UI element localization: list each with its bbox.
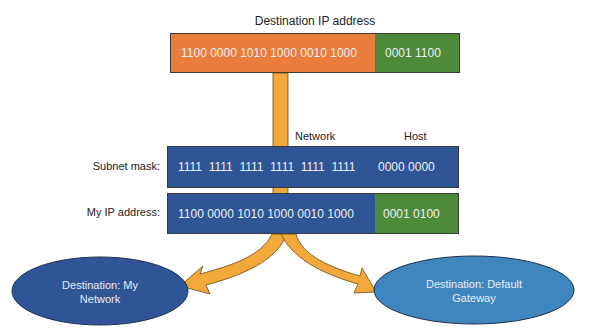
default-gateway-text: Destination: Default Gateway (419, 277, 529, 305)
subnet-network-bits: 1111 1111 1111 1111 1111 1111 (178, 160, 355, 174)
my-ip-host-bits: 0001 0100 (383, 207, 440, 221)
host-column-label: Host (404, 130, 427, 142)
destination-network-bits: 1100 0000 1010 1000 0010 1000 (181, 46, 357, 60)
subnet-mask-box: 1111 1111 1111 1111 1111 1111 0000 0000 (167, 146, 459, 188)
my-ip-box: 1100 0000 1010 1000 0010 1000 0001 0100 (167, 193, 459, 234)
my-ip-host-segment: 0001 0100 (375, 194, 458, 233)
network-column-label: Network (295, 130, 335, 142)
destination-network-segment: 1100 0000 1010 1000 0010 1000 (171, 34, 375, 72)
my-ip-label: My IP address: (0, 206, 160, 218)
subnet-mask-label: Subnet mask: (0, 160, 160, 172)
subnet-host-bits: 0000 0000 (378, 160, 435, 174)
destination-ip-box: 1100 0000 1010 1000 0010 1000 0001 1100 (170, 33, 460, 73)
destination-ip-title: Destination IP address (0, 14, 596, 28)
my-ip-network-segment: 1100 0000 1010 1000 0010 1000 (168, 194, 375, 233)
destination-host-segment: 0001 1100 (375, 34, 459, 72)
arrow-to-my-network (180, 234, 287, 294)
destination-host-bits: 0001 1100 (385, 46, 441, 60)
my-network-text: Destination: My Network (45, 278, 155, 306)
my-ip-network-bits: 1100 0000 1010 1000 0010 1000 (178, 207, 354, 221)
subnet-host-segment: 0000 0000 (374, 147, 458, 187)
subnet-network-segment: 1111 1111 1111 1111 1111 1111 (168, 147, 374, 187)
arrow-to-default-gateway (281, 234, 376, 293)
